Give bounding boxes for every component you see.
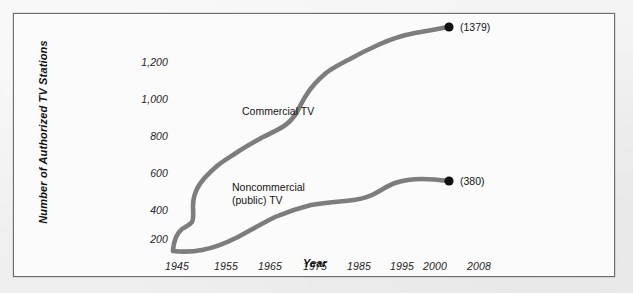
series-line-commercial-tv [173,27,448,250]
figure-page: Number of Authorized TV Stations 1,200 1… [0,0,633,293]
y-tick-600: 600 [122,167,168,179]
chart-frame: Number of Authorized TV Stations 1,200 1… [13,13,615,277]
plot-area: Number of Authorized TV Stations 1,200 1… [14,14,614,276]
y-tick-400: 400 [122,204,168,216]
y-axis-title: Number of Authorized TV Stations [37,32,49,232]
y-tick-1000: 1,000 [122,93,168,105]
series-label-noncommercial-tv-line1: Noncommercial [232,181,305,193]
endpoint-label-noncommercial-tv: (380) [460,175,485,187]
y-tick-200: 200 [122,233,168,245]
y-tick-1200: 1,200 [122,56,168,68]
endpoint-marker-noncommercial-tv [444,176,453,185]
chart-canvas [14,14,616,278]
y-tick-800: 800 [122,130,168,142]
series-label-noncommercial-tv: Noncommercial(public) TV [232,181,305,207]
series-line-noncommercial-tv [173,179,448,252]
series-label-noncommercial-tv-line2: (public) TV [232,194,283,206]
series-label-commercial-tv: Commercial TV [242,105,314,118]
x-axis-title: Year [14,257,616,269]
endpoint-marker-commercial-tv [444,22,453,31]
endpoint-label-commercial-tv: (1379) [460,21,490,33]
